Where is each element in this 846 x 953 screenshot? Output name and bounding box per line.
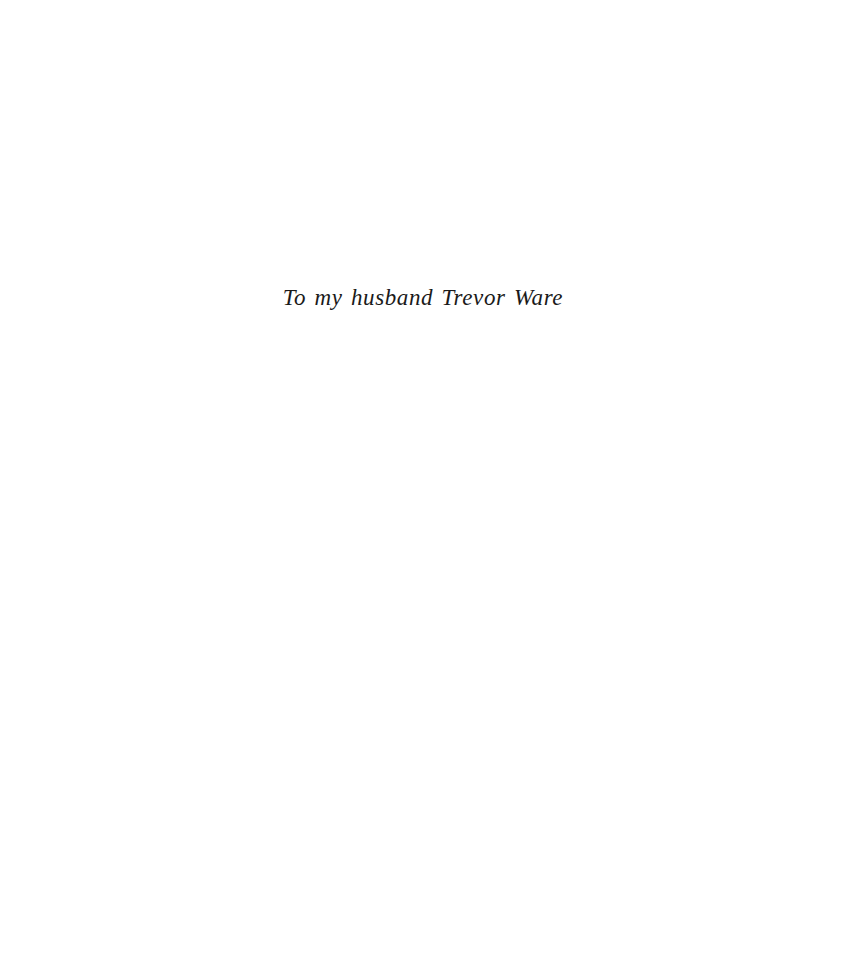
dedication-text: To my husband Trevor Ware <box>0 283 846 313</box>
document-page: To my husband Trevor Ware <box>0 0 846 953</box>
